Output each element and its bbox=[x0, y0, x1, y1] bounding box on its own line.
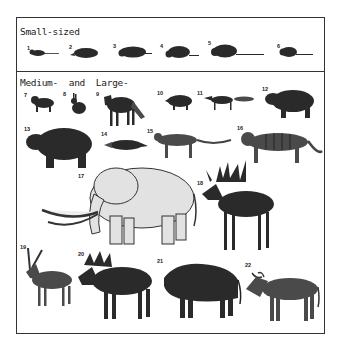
badger-14-icon bbox=[104, 137, 148, 153]
animal-number: 11 bbox=[197, 90, 203, 96]
raccoon-dog-10-icon bbox=[165, 93, 195, 111]
animal-number: 7 bbox=[24, 92, 27, 98]
animal-number: 10 bbox=[157, 90, 163, 96]
fox-11-icon bbox=[204, 93, 254, 111]
section-title-small: Small-sized bbox=[20, 26, 80, 37]
hare-8-icon bbox=[69, 93, 87, 115]
monkey-7-icon bbox=[30, 95, 56, 113]
mouse-1-icon bbox=[29, 48, 61, 58]
shrew-6-icon bbox=[279, 46, 315, 59]
giant-deer-18-icon bbox=[200, 160, 280, 252]
animal-number: 22 bbox=[245, 262, 251, 268]
wolf-9-icon bbox=[101, 93, 147, 127]
rat-5-icon bbox=[210, 43, 266, 59]
leopard-15-icon bbox=[153, 130, 233, 160]
elephant-17-icon bbox=[42, 164, 202, 246]
mole-2-icon bbox=[72, 46, 100, 60]
animal-number: 8 bbox=[63, 91, 66, 97]
bear-12-icon bbox=[265, 89, 317, 119]
moose-20-icon bbox=[78, 251, 156, 321]
animal-number: 4 bbox=[160, 43, 163, 49]
animal-number: 9 bbox=[96, 91, 99, 97]
rat-4-icon bbox=[165, 45, 199, 60]
deer-19-icon bbox=[24, 246, 78, 308]
animal-number: 3 bbox=[113, 43, 116, 49]
vole-3-icon bbox=[117, 45, 153, 59]
section-title-large: Medium- and Large- bbox=[20, 77, 128, 88]
aurochs-22-icon bbox=[246, 271, 322, 323]
bison-21-icon bbox=[162, 262, 242, 320]
